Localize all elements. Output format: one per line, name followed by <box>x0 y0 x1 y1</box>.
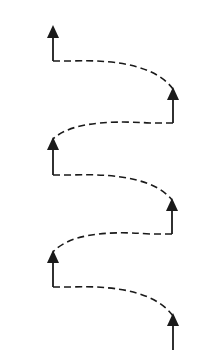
up-arrow-icon <box>167 313 179 350</box>
dashed-connector-0 <box>53 287 173 316</box>
up-arrow-icon <box>47 25 59 61</box>
dashed-connectors <box>53 61 173 316</box>
up-arrow-icon <box>47 137 59 175</box>
dashed-connector-1 <box>53 233 172 252</box>
arrow-head <box>47 250 59 263</box>
dashed-connector-2 <box>53 175 172 200</box>
helix-arrow-diagram <box>0 0 212 364</box>
arrow-head <box>166 198 178 211</box>
up-arrow-icon <box>47 250 59 287</box>
dashed-connector-4 <box>53 61 173 89</box>
arrow-head <box>167 87 179 100</box>
up-arrow-icon <box>166 198 178 234</box>
arrow-head <box>47 137 59 150</box>
up-arrow-icon <box>167 87 179 123</box>
dashed-connector-3 <box>53 122 173 139</box>
arrow-head <box>47 25 59 38</box>
arrow-head <box>167 313 179 326</box>
up-arrows <box>47 25 179 350</box>
